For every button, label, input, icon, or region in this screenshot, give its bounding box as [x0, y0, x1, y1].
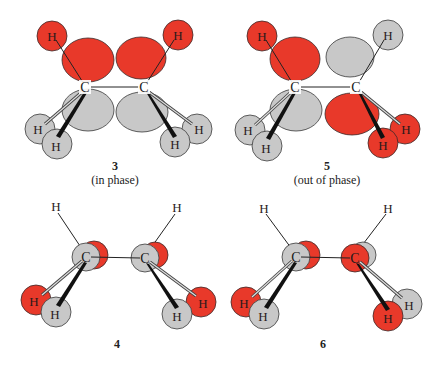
h-label: H: [33, 122, 42, 137]
h-label: H: [243, 123, 252, 138]
h-label: H: [29, 294, 38, 309]
h-label: H: [51, 199, 60, 214]
c-label: C: [290, 80, 299, 95]
c-label: C: [291, 250, 300, 265]
h-label: H: [51, 139, 60, 154]
h-label: H: [172, 309, 181, 324]
panel-6: H H H H H H C C 6: [231, 201, 422, 352]
c-label: C: [350, 251, 359, 266]
c-label: C: [140, 251, 149, 266]
orbital-diagram: .red { fill: #e8392a; stroke: #3a2a2a; s…: [0, 0, 440, 372]
c-label: C: [80, 80, 89, 95]
panel-3: H H H H H H C C 3 (in phase): [25, 20, 212, 187]
h-label: H: [170, 137, 179, 152]
c-label: C: [351, 80, 360, 95]
compound-number: 6: [320, 337, 326, 351]
h-label: H: [383, 311, 392, 326]
c-label: C: [139, 80, 148, 95]
h-label: H: [383, 201, 392, 216]
c-label: C: [81, 250, 90, 265]
h-label: H: [259, 201, 268, 216]
h-label: H: [194, 122, 203, 137]
hashed-bond-inner: [360, 262, 402, 298]
compound-number: 4: [114, 337, 120, 351]
h-label: H: [383, 28, 392, 43]
compound-number: 3: [112, 159, 118, 173]
wedge-bond: [264, 262, 297, 309]
compound-number: 5: [324, 159, 330, 173]
wedge-bond: [356, 263, 390, 311]
compound-caption: (in phase): [91, 173, 139, 187]
h-label: H: [198, 296, 207, 311]
h-label: H: [50, 307, 59, 322]
upper-lobe-right: [116, 37, 166, 79]
h-label: H: [47, 29, 56, 44]
h-label: H: [378, 138, 387, 153]
compound-caption: (out of phase): [294, 173, 361, 187]
h-label: H: [404, 298, 413, 313]
h-label: H: [173, 28, 182, 43]
h-label: H: [257, 29, 266, 44]
panel-4: H H H H H H C C 4: [21, 199, 216, 352]
panel-5: H H H H H H C C 5 (out of phase): [235, 20, 420, 187]
upper-lobe-right: [326, 37, 374, 77]
h-label: H: [261, 141, 270, 156]
h-label: H: [401, 122, 410, 137]
lower-lobe-left: [62, 89, 114, 131]
h-label: H: [172, 200, 181, 215]
h-label: H: [239, 296, 248, 311]
upper-lobe-left: [62, 38, 114, 82]
h-label: H: [258, 309, 267, 324]
